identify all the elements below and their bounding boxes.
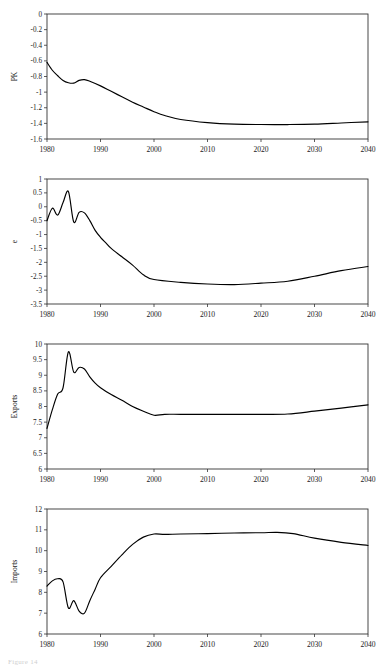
y-axis-label: Imports — [10, 560, 19, 584]
chart-panel-exports: 109.598.587.576.561980199020002010202020… — [0, 330, 391, 495]
y-tick-label: 6 — [38, 631, 42, 639]
x-tick-label: 2010 — [200, 475, 215, 484]
y-tick-label: -0.2 — [31, 26, 43, 34]
x-tick-label: 2040 — [360, 475, 375, 484]
y-tick-label: 12 — [35, 506, 43, 514]
y-tick-label: 0 — [38, 203, 42, 211]
series-line — [47, 352, 368, 429]
series-line — [47, 62, 368, 124]
x-tick-label: 2030 — [307, 640, 322, 649]
x-tick-label: 1980 — [39, 640, 54, 649]
x-tick-label: 2030 — [307, 475, 322, 484]
x-tick-label: 2010 — [200, 310, 215, 319]
y-tick-label: 0.5 — [33, 189, 42, 197]
x-tick-label: 2000 — [146, 475, 161, 484]
y-tick-label: -0.5 — [31, 217, 43, 225]
x-tick-label: 2040 — [360, 640, 375, 649]
y-tick-label: 1 — [38, 176, 42, 184]
x-tick-label: 2020 — [253, 640, 268, 649]
y-axis-label: e — [10, 239, 19, 243]
chart-panel-pk: 0-0.2-0.4-0.6-0.8-1-1.2-1.4-1.6198019902… — [0, 0, 391, 165]
y-tick-label: -2 — [36, 259, 42, 267]
y-tick-label: -3 — [36, 287, 42, 295]
y-tick-label: -2.5 — [31, 273, 43, 281]
y-tick-label: 7 — [38, 434, 42, 442]
x-tick-label: 1990 — [93, 640, 108, 649]
x-tick-label: 2010 — [200, 640, 215, 649]
y-tick-label: -1 — [36, 231, 42, 239]
x-tick-label: 2040 — [360, 145, 375, 154]
y-tick-label: 7 — [38, 610, 42, 618]
chart-svg-exports: 109.598.587.576.561980199020002010202020… — [0, 330, 391, 495]
y-tick-label: -0.8 — [31, 73, 43, 81]
x-tick-label: 1980 — [39, 475, 54, 484]
y-tick-label: -1.5 — [31, 245, 43, 253]
y-axis-label: Exports — [10, 395, 19, 419]
x-tick-label: 2030 — [307, 310, 322, 319]
x-tick-label: 2020 — [253, 310, 268, 319]
chart-panel-e: 10.50-0.5-1-1.5-2-2.5-3-3.51980199020002… — [0, 165, 391, 330]
x-tick-label: 1980 — [39, 145, 54, 154]
y-tick-label: 10 — [35, 547, 43, 555]
y-tick-label: -3.5 — [31, 301, 43, 309]
x-tick-label: 2000 — [146, 310, 161, 319]
chart-svg-pk: 0-0.2-0.4-0.6-0.8-1-1.2-1.4-1.6198019902… — [0, 0, 391, 165]
x-tick-label: 2000 — [146, 640, 161, 649]
y-tick-label: -1.2 — [31, 104, 43, 112]
y-tick-label: -1.4 — [31, 120, 43, 128]
plot-frame — [47, 14, 368, 139]
y-tick-label: -0.6 — [31, 57, 43, 65]
x-tick-label: 2000 — [146, 145, 161, 154]
series-line — [47, 191, 368, 285]
y-tick-label: -1.6 — [31, 136, 43, 144]
y-tick-label: 8.5 — [33, 387, 42, 395]
figure-caption: Figure 14 — [8, 658, 168, 667]
y-tick-label: 9 — [38, 372, 42, 380]
y-tick-label: 10 — [35, 341, 43, 349]
figure-sheet: 0-0.2-0.4-0.6-0.8-1-1.2-1.4-1.6198019902… — [0, 0, 391, 668]
y-tick-label: -0.4 — [31, 42, 43, 50]
y-tick-label: 7.5 — [33, 419, 42, 427]
y-tick-label: 6 — [38, 466, 42, 474]
x-tick-label: 2030 — [307, 145, 322, 154]
x-tick-label: 1990 — [93, 310, 108, 319]
x-tick-label: 2020 — [253, 145, 268, 154]
y-tick-label: 11 — [35, 526, 42, 534]
plot-frame — [47, 509, 368, 634]
x-tick-label: 2010 — [200, 145, 215, 154]
x-tick-label: 1990 — [93, 475, 108, 484]
x-tick-label: 2040 — [360, 310, 375, 319]
x-tick-label: 1990 — [93, 145, 108, 154]
y-tick-label: 0 — [38, 11, 42, 19]
y-tick-label: 8 — [38, 589, 42, 597]
chart-svg-imports: 12111098761980199020002010202020302040Im… — [0, 495, 391, 660]
y-tick-label: 9 — [38, 568, 42, 576]
plot-frame — [47, 179, 368, 304]
x-tick-label: 1980 — [39, 310, 54, 319]
y-axis-label: PK — [10, 71, 19, 81]
y-tick-label: -1 — [36, 89, 42, 97]
x-tick-label: 2020 — [253, 475, 268, 484]
y-tick-label: 6.5 — [33, 450, 42, 458]
y-tick-label: 8 — [38, 403, 42, 411]
series-line — [47, 532, 368, 614]
y-tick-label: 9.5 — [33, 356, 42, 364]
plot-frame — [47, 344, 368, 469]
chart-svg-e: 10.50-0.5-1-1.5-2-2.5-3-3.51980199020002… — [0, 165, 391, 330]
chart-panel-imports: 12111098761980199020002010202020302040Im… — [0, 495, 391, 660]
